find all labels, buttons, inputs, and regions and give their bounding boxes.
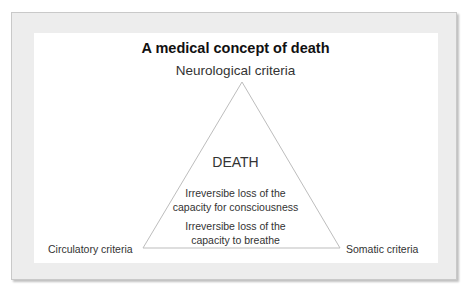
diagram-title: A medical concept of death [0,40,471,56]
center-title-death: DEATH [0,154,471,170]
breathing-line-a: Irreversibe loss of the [0,219,471,233]
consciousness-definition: Irreversibe loss of the capacity for con… [0,186,471,214]
apex-label-neurological: Neurological criteria [0,63,471,78]
breathing-definition: Irreversibe loss of the capacity to brea… [0,219,471,247]
breathing-line-b: capacity to breathe [0,233,471,247]
consciousness-line-b: capacity for consciousness [0,200,471,214]
consciousness-line-a: Irreversibe loss of the [0,186,471,200]
